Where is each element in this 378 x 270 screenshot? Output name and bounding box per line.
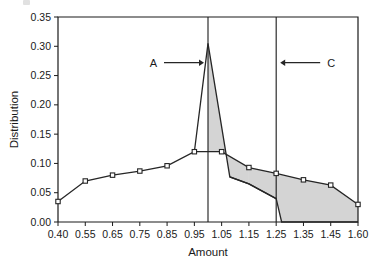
y-tick-label: 0.05 bbox=[31, 186, 52, 198]
x-tick-label: 1.15 bbox=[239, 228, 260, 240]
annotation-label-c: C bbox=[327, 57, 335, 69]
y-tick-label: 0.25 bbox=[31, 69, 52, 81]
scan-artifact bbox=[23, 0, 30, 5]
x-tick-label: 0.40 bbox=[48, 228, 69, 240]
y-axis-title: Distribution bbox=[8, 91, 20, 149]
shaded-region-c bbox=[249, 168, 358, 222]
shaded-region-a bbox=[208, 43, 249, 184]
y-tick-label: 0.15 bbox=[31, 128, 52, 140]
y-tick-label: 0.30 bbox=[31, 40, 52, 52]
arrow-head bbox=[199, 59, 204, 65]
x-tick-label: 1.05 bbox=[211, 228, 232, 240]
y-tick-label: 0.20 bbox=[31, 98, 52, 110]
x-tick-label: 1.35 bbox=[293, 228, 314, 240]
data-point-marker bbox=[165, 164, 169, 168]
x-tick-label: 1.25 bbox=[266, 228, 287, 240]
data-point-marker bbox=[110, 173, 114, 177]
data-point-marker bbox=[301, 178, 305, 182]
x-tick-label: 0.85 bbox=[157, 228, 178, 240]
distribution-chart: 0.400.550.650.750.850.951.051.151.251.35… bbox=[0, 0, 378, 270]
x-tick-label: 0.55 bbox=[75, 228, 96, 240]
y-tick-label: 0.35 bbox=[31, 11, 52, 23]
data-point-marker bbox=[247, 165, 251, 169]
arrow-head bbox=[280, 59, 285, 65]
annotation-label-a: A bbox=[150, 57, 158, 69]
data-point-marker bbox=[356, 202, 360, 206]
data-point-marker bbox=[219, 150, 223, 154]
data-point-marker bbox=[83, 179, 87, 183]
x-tick-label: 0.75 bbox=[130, 228, 151, 240]
data-point-marker bbox=[56, 199, 60, 203]
x-tick-label: 1.45 bbox=[321, 228, 342, 240]
data-point-marker bbox=[138, 169, 142, 173]
y-tick-label: 0.00 bbox=[31, 216, 52, 228]
x-tick-label: 1.60 bbox=[348, 228, 369, 240]
x-axis-title: Amount bbox=[188, 246, 228, 258]
data-point-marker bbox=[329, 183, 333, 187]
data-point-marker bbox=[274, 171, 278, 175]
x-tick-label: 0.95 bbox=[184, 228, 205, 240]
data-point-marker bbox=[192, 150, 196, 154]
chart-figure: 0.400.550.650.750.850.951.051.151.251.35… bbox=[0, 0, 378, 270]
y-tick-label: 0.10 bbox=[31, 157, 52, 169]
x-tick-label: 0.65 bbox=[102, 228, 123, 240]
